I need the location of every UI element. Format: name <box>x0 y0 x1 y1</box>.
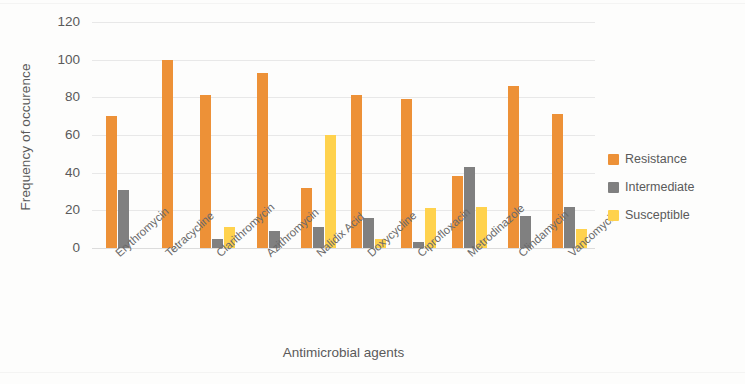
orange-swatch-icon <box>608 154 619 165</box>
bar-group <box>545 22 595 248</box>
legend-item[interactable]: Susceptible <box>608 208 738 222</box>
y-axis-tick-label: 40 <box>34 165 80 180</box>
y-axis-tick-label: 0 <box>34 240 80 255</box>
legend-item[interactable]: Intermediate <box>608 180 738 194</box>
y-axis-tick-label: 20 <box>34 202 80 217</box>
bar-group <box>394 22 444 248</box>
y-axis-tick-label: 120 <box>34 14 80 29</box>
legend-item[interactable]: Resistance <box>608 152 738 166</box>
chart-figure: Frequency of occurence 120100806040200 E… <box>0 0 745 384</box>
legend-label: Resistance <box>625 152 687 166</box>
bar <box>106 116 117 248</box>
bar-group <box>193 22 243 248</box>
legend-label: Susceptible <box>625 208 690 222</box>
chart-legend: ResistanceIntermediateSusceptible <box>608 152 738 236</box>
bar-group <box>92 22 142 248</box>
y-axis-tick-label: 100 <box>34 52 80 67</box>
gray-swatch-icon <box>608 182 619 193</box>
x-axis-ticks: ErythromycinTetracyclineClarithromycinAz… <box>92 250 595 330</box>
legend-label: Intermediate <box>625 180 694 194</box>
yellow-swatch-icon <box>608 210 619 221</box>
x-axis-title: Antimicrobial agents <box>92 345 595 360</box>
y-axis-tick-label: 60 <box>34 127 80 142</box>
bar-group <box>343 22 393 248</box>
y-axis-tick-label: 80 <box>34 89 80 104</box>
